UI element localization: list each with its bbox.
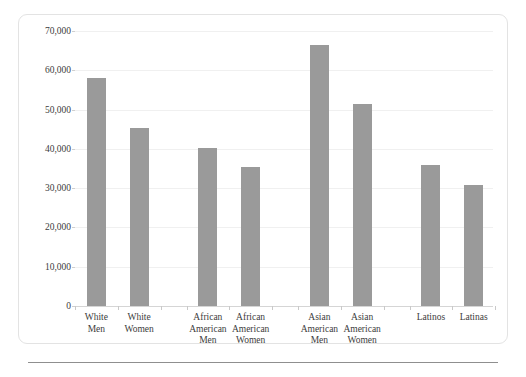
x-axis-category-label: African American Women	[225, 312, 276, 347]
x-axis-category-label: White Women	[114, 312, 165, 335]
x-axis-tick	[75, 306, 76, 310]
x-axis-tick	[452, 306, 453, 310]
x-axis-tick	[161, 306, 162, 310]
x-axis-tick	[410, 306, 411, 310]
bar	[464, 185, 483, 306]
y-axis-tick-label: 0	[19, 301, 71, 311]
x-axis-category-label: Latinas	[448, 312, 499, 324]
y-axis-tick-label: 10,000	[19, 262, 71, 272]
y-axis-tick-label: 70,000	[19, 26, 71, 36]
x-axis-tick	[229, 306, 230, 310]
plot-area	[75, 31, 493, 306]
bar	[198, 148, 217, 306]
x-axis-ticks	[75, 306, 493, 311]
bar	[421, 165, 440, 306]
x-axis-tick	[495, 306, 496, 310]
x-axis-tick	[118, 306, 119, 310]
chart-card: 010,00020,00030,00040,00050,00060,00070,…	[18, 14, 508, 344]
x-axis-tick	[298, 306, 299, 310]
x-axis-tick	[384, 306, 385, 310]
y-axis-tick-label: 40,000	[19, 144, 71, 154]
y-axis-tick-label: 60,000	[19, 65, 71, 75]
y-axis-tick-label: 50,000	[19, 105, 71, 115]
bar	[353, 104, 372, 306]
y-axis: 010,00020,00030,00040,00050,00060,00070,…	[19, 31, 71, 306]
bar	[87, 78, 106, 306]
y-axis-tick-label: 20,000	[19, 222, 71, 232]
bar	[310, 45, 329, 306]
horizontal-rule	[28, 362, 498, 363]
x-axis-tick	[341, 306, 342, 310]
bar-series	[75, 31, 493, 306]
x-axis-tick	[272, 306, 273, 310]
bar	[241, 167, 260, 306]
x-axis-labels: White MenWhite WomenAfrican American Men…	[75, 312, 493, 358]
bar	[130, 128, 149, 306]
x-axis-category-label: Asian American Women	[337, 312, 388, 347]
x-axis-tick	[187, 306, 188, 310]
y-axis-tick-label: 30,000	[19, 183, 71, 193]
